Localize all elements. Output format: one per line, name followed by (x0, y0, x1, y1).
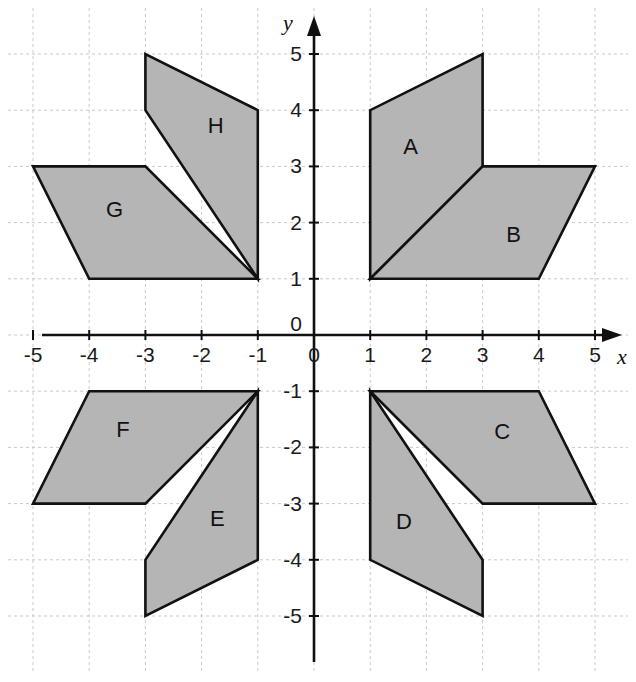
x-axis-label: x (616, 344, 627, 369)
y-axis-arrow-icon (307, 16, 321, 36)
x-axis-arrow-icon (602, 328, 622, 342)
y-tick-label: 1 (290, 267, 302, 290)
y-tick-label: 3 (290, 154, 302, 177)
coordinate-grid-svg: -5-4-3-2-11234554321-1-2-3-4-500xy ABCDE… (0, 0, 636, 682)
x-tick-label: 4 (533, 343, 545, 366)
shape-label-f: F (116, 417, 129, 442)
tick-labels: -5-4-3-2-11234554321-1-2-3-4-500xy (24, 10, 627, 627)
coordinate-plane-figure: -5-4-3-2-11234554321-1-2-3-4-500xy ABCDE… (0, 0, 636, 682)
shape-label-c: C (494, 419, 510, 444)
y-tick-label: 2 (290, 211, 302, 234)
shape-label-a: A (403, 134, 418, 159)
axes (33, 16, 622, 662)
y-tick-label: -2 (283, 435, 302, 458)
y-tick-label: -5 (283, 604, 302, 627)
x-tick-label: -2 (192, 343, 211, 366)
y-tick-label: -3 (283, 492, 302, 515)
shape-label-h: H (208, 113, 224, 138)
x-tick-label: 5 (589, 343, 601, 366)
y-axis-label: y (281, 10, 293, 35)
x-tick-label: -3 (136, 343, 155, 366)
y-tick-label: 5 (290, 42, 302, 65)
y-tick-label: 4 (290, 98, 302, 121)
y-tick-label: -4 (283, 548, 302, 571)
shape-label-d: D (396, 509, 412, 534)
x-tick-label: -4 (80, 343, 99, 366)
x-tick-label: 3 (477, 343, 489, 366)
shape-label-e: E (210, 506, 225, 531)
grid-lines (8, 8, 628, 674)
x-tick-label: 1 (364, 343, 376, 366)
x-tick-label: -1 (248, 343, 267, 366)
x-tick-label: 2 (421, 343, 433, 366)
origin-label-y: 0 (290, 312, 302, 335)
x-tick-label: -5 (24, 343, 43, 366)
shape-label-b: B (506, 222, 521, 247)
shape-label-g: G (106, 197, 123, 222)
origin-label-x: 0 (308, 343, 320, 366)
y-tick-label: -1 (283, 379, 302, 402)
